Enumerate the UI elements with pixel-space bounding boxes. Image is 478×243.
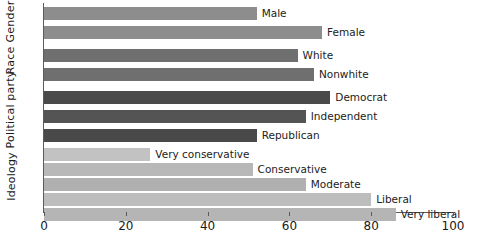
bar-label: Independent (311, 110, 378, 123)
bar-label: Nonwhite (319, 68, 369, 81)
bar-label: Republican (262, 129, 320, 142)
x-axis-tick (44, 212, 45, 216)
bar-label: Moderate (311, 178, 361, 191)
bar (44, 91, 330, 104)
group-label-political-party: Political party (0, 81, 22, 138)
bar (44, 26, 322, 39)
x-axis-tick-label: 20 (118, 219, 133, 233)
bar-label: Very conservative (155, 148, 249, 161)
bar (44, 178, 306, 191)
group-label-gender: Gender (0, 3, 22, 39)
bar-label: Liberal (376, 193, 412, 206)
x-axis-tick (453, 212, 454, 216)
group-label-ideology-text: Ideology (5, 152, 18, 201)
bar (44, 129, 257, 142)
bar-label: Male (262, 7, 287, 20)
group-label-ideology: Ideology (0, 140, 22, 212)
bar-label: Female (327, 26, 365, 39)
x-axis-tick (126, 212, 127, 216)
bar (44, 193, 371, 206)
bar (44, 49, 298, 62)
x-axis-tick (208, 212, 209, 216)
x-axis-tick (289, 212, 290, 216)
bar-label: Conservative (258, 163, 327, 176)
x-axis-tick-label: 0 (40, 219, 48, 233)
bar-label: Democrat (335, 91, 387, 104)
group-label-gender-text: Gender (5, 0, 18, 42)
plot-area: MaleFemaleWhiteNonwhiteDemocratIndepende… (44, 3, 453, 211)
bar (44, 7, 257, 20)
bar (44, 163, 253, 176)
group-label-political-party-text: Political party (5, 71, 18, 149)
bar-chart: Gender Race Political party Ideology Mal… (0, 0, 478, 243)
bar (44, 208, 396, 221)
bar (44, 110, 306, 123)
x-axis-tick (371, 212, 372, 216)
x-axis-tick-label: 60 (282, 219, 297, 233)
x-axis-tick-label: 40 (200, 219, 215, 233)
x-axis-tick-label: 100 (442, 219, 465, 233)
bar (44, 68, 314, 81)
x-axis-tick-label: 80 (364, 219, 379, 233)
bar-label: White (303, 49, 334, 62)
bar (44, 148, 150, 161)
